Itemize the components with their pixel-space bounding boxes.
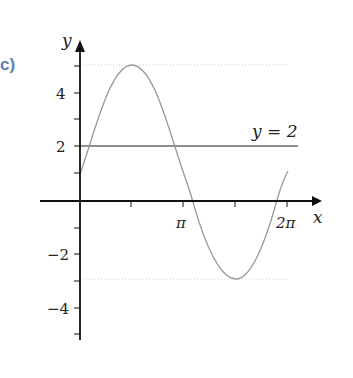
sine-curve bbox=[80, 65, 288, 279]
chart: y x π 2π 4 2 −2 −4 y = 2 bbox=[0, 0, 353, 378]
y-tick-label-4: 4 bbox=[56, 85, 66, 103]
y-axis-label: y bbox=[61, 30, 72, 50]
x-axis-arrow-icon bbox=[312, 196, 322, 206]
x-tick-label-pi: π bbox=[175, 214, 187, 232]
x-axis-label: x bbox=[313, 207, 323, 227]
y-tick-label-minus-4: −4 bbox=[47, 300, 69, 318]
y-tick-label-minus-2: −2 bbox=[47, 246, 69, 264]
y-tick-label-2: 2 bbox=[56, 138, 66, 156]
x-tick-label-2pi: 2π bbox=[275, 214, 297, 232]
line-annotation: y = 2 bbox=[251, 121, 297, 141]
y-axis-arrow-icon bbox=[75, 40, 85, 52]
